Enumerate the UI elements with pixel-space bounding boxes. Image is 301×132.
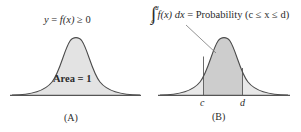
panel-a-caption: (A) (64, 113, 78, 123)
probability-expression: Probability (c ≤ x ≤ d) (196, 9, 289, 20)
integral-formula: ∫dcf(x) dx = Probability (c ≤ x ≤ d) (151, 9, 289, 23)
integral-lower-limit: c (151, 18, 154, 25)
integral-limits: dc (153, 8, 156, 22)
panel-b: ∫dcf(x) dx = Probability (c ≤ x ≤ d) c d… (150, 0, 301, 132)
panel-a: y = f(x) ≥ 0 Area = 1 (A) (0, 0, 150, 132)
integral-upper-limit: d (155, 5, 158, 12)
differential: dx (175, 9, 185, 20)
area-label: Area = 1 (53, 74, 91, 85)
leader-line (186, 25, 216, 53)
interval-shaded-region (160, 38, 288, 95)
probability-density-figure: y = f(x) ≥ 0 Area = 1 (A) (0, 0, 301, 132)
integrand: f(x) (157, 9, 172, 20)
curve-equation-label: y = f(x) ≥ 0 (44, 15, 91, 26)
axis-label-c: c (200, 98, 204, 108)
density-curve-fill-a (12, 38, 140, 95)
axis-label-d: d (240, 98, 245, 108)
panel-b-caption: (B) (212, 112, 225, 122)
